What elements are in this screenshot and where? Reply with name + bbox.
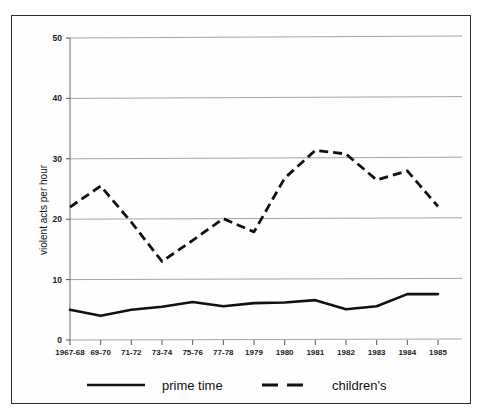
legend-label-prime-time: prime time xyxy=(162,378,223,393)
legend-label-childrens: children's xyxy=(332,378,387,393)
y-tick-label-0: 0 xyxy=(57,335,62,345)
chart-figure: 50 40 30 20 10 0 violent acts per hour 1… xyxy=(0,0,485,419)
x-tick-label: 1967-68 xyxy=(55,348,85,357)
x-tick-label: 71-72 xyxy=(121,348,142,357)
y-axis-title: violent acts per hour xyxy=(38,164,49,255)
x-tick-label: 73-74 xyxy=(152,348,173,357)
y-tick-label-40: 40 xyxy=(53,93,63,103)
x-tick-label: 1982 xyxy=(337,348,355,357)
x-tick-label: 77-78 xyxy=(213,348,234,357)
gridline-10 xyxy=(70,278,462,279)
x-tick-label: 1981 xyxy=(306,348,324,357)
gridline-0 xyxy=(70,339,462,340)
x-tick-label: 1983 xyxy=(368,348,386,357)
y-tick-label-50: 50 xyxy=(53,33,63,43)
x-tickmarks xyxy=(70,340,438,345)
series-line-prime-time xyxy=(70,294,438,316)
y-tick-labels: 50 40 30 20 10 0 xyxy=(53,33,63,345)
gridline-40 xyxy=(70,97,462,99)
x-tick-label: 1980 xyxy=(276,348,294,357)
gridline-20 xyxy=(70,218,462,219)
gridline-50 xyxy=(70,36,462,38)
x-tick-label: 1979 xyxy=(245,348,263,357)
y-tick-label-20: 20 xyxy=(53,214,63,224)
y-tickmarks xyxy=(66,38,70,340)
gridline-30 xyxy=(70,157,462,159)
x-tick-label: 1984 xyxy=(398,348,416,357)
y-tick-label-10: 10 xyxy=(53,275,63,285)
x-tick-labels: 1967-6869-7071-7273-7475-7677-7819791980… xyxy=(55,348,447,357)
x-tick-label: 75-76 xyxy=(182,348,203,357)
x-tick-label: 1985 xyxy=(429,348,447,357)
series-line-childrens xyxy=(70,150,438,261)
x-tick-label: 69-70 xyxy=(90,348,111,357)
line-chart: 50 40 30 20 10 0 violent acts per hour 1… xyxy=(0,0,485,419)
y-tick-label-30: 30 xyxy=(53,154,63,164)
chart-legend: prime time children's xyxy=(87,378,387,393)
